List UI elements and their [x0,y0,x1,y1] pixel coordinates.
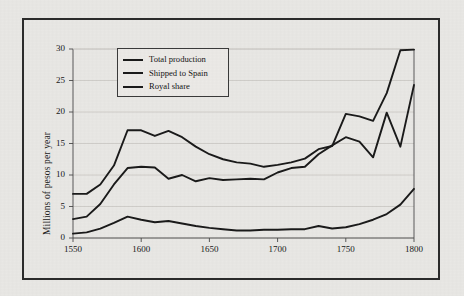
legend-item-royal-share: Royal share [123,80,223,94]
y-tick-label: 30 [43,43,65,53]
x-tick-label: 1650 [189,244,229,254]
x-tick-label: 1600 [121,244,161,254]
legend-label: Shipped to Spain [149,69,208,78]
y-tick-label: 5 [43,201,65,211]
y-tick-label: 20 [43,106,65,116]
y-tick-label: 0 [43,232,65,242]
x-tick-label: 1800 [394,244,434,254]
x-tick-label: 1750 [326,244,366,254]
legend-label: Total production [149,55,206,64]
x-tick-label: 1550 [53,244,93,254]
legend-item-total-production: Total production [123,53,223,67]
x-tick-label: 1700 [258,244,298,254]
legend-line-icon [123,72,143,74]
y-tick-label: 15 [43,138,65,148]
y-tick-label: 10 [43,169,65,179]
legend-item-shipped-to-spain: Shipped to Spain [123,67,223,81]
chart-plot-area: Millions of pesos per year 051015202530 … [0,0,464,296]
legend-line-icon [123,59,143,61]
figure-page: Millions of pesos per year 051015202530 … [0,0,464,296]
legend-line-icon [123,86,143,88]
legend-label: Royal share [149,82,190,91]
y-tick-label: 25 [43,75,65,85]
chart-legend: Total production Shipped to Spain Royal … [117,48,229,97]
